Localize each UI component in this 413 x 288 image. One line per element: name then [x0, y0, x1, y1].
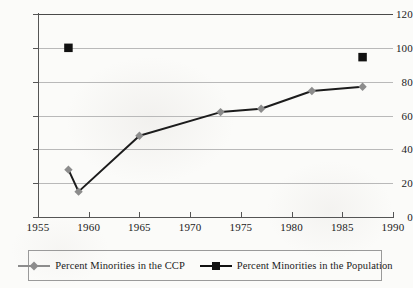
ccp-data-point — [308, 87, 316, 95]
legend-entry-population[interactable]: Percent Minorities in the Population — [199, 260, 393, 272]
legend-entry-ccp[interactable]: Percent Minorities in the CCP — [17, 260, 184, 272]
population-data-point — [358, 53, 367, 62]
ccp-series-markers — [64, 83, 367, 196]
legend-label-ccp: Percent Minorities in the CCP — [55, 260, 184, 271]
legend-label-population: Percent Minorities in the Population — [237, 260, 393, 271]
ccp-data-point — [257, 105, 265, 113]
ccp-data-point — [358, 83, 366, 91]
series-layer — [0, 0, 413, 245]
population-data-point — [64, 44, 73, 53]
square-marker-icon — [199, 260, 233, 272]
ccp-data-point — [216, 108, 224, 116]
chart-legend: Percent Minorities in the CCP Percent Mi… — [28, 250, 382, 281]
ccp-series-line — [68, 87, 362, 192]
chart-page: 120 100 80 60 40 20 0 1955 1960 1965 197… — [0, 0, 413, 288]
chart-plot-region: 120 100 80 60 40 20 0 1955 1960 1965 197… — [0, 0, 413, 245]
ccp-data-point — [64, 165, 72, 173]
diamond-marker-icon — [17, 260, 51, 272]
population-series-markers — [64, 44, 367, 62]
